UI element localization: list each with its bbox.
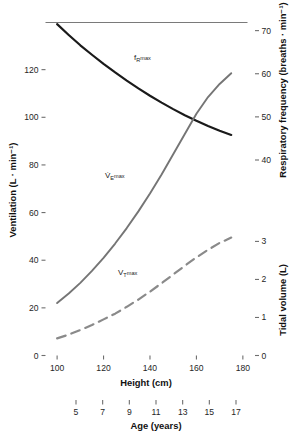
y-tick-tidal-volume: 1 [262,312,267,322]
y-tick-ventilation: 0 [34,351,39,361]
ventilation-growth-chart: 020406080100120 40506070 0123 1001201401… [0,0,299,434]
y-tick-ventilation: 40 [29,255,39,265]
x-tick-age: 9 [127,407,132,417]
x-tick-height: 180 [236,363,251,373]
y-tick-respiratory-frequency: 40 [262,155,272,165]
x-axis-title-height: Height (cm) [120,377,172,388]
x-tick-age: 11 [152,407,161,417]
y-axis-title-respiratory-frequency: Respiratory frequency (breaths · min⁻¹) [277,2,288,177]
x-tick-age: 17 [231,407,241,417]
y-tick-ventilation: 80 [29,160,39,170]
x-tick-height: 120 [96,363,111,373]
x-tick-age: 7 [100,407,105,417]
x-tick-age: 13 [178,407,188,417]
y-tick-ventilation: 100 [24,112,39,122]
x-tick-height: 160 [189,363,204,373]
x-tick-height: 140 [143,363,158,373]
y-tick-ventilation: 60 [29,208,39,218]
y-tick-ventilation: 20 [29,303,39,313]
y-axis-title-tidal-volume: Tidal volume (L) [277,264,288,336]
x-tick-height: 100 [50,363,65,373]
y-tick-tidal-volume: 0 [262,351,267,361]
x-axis-title-age: Age (years) [130,420,181,431]
y-tick-tidal-volume: 2 [262,274,267,284]
chart-figure: 020406080100120 40506070 0123 1001201401… [0,0,299,434]
y-axis-title-ventilation: Ventilation (L · min⁻¹) [7,143,18,238]
y-tick-respiratory-frequency: 50 [262,112,272,122]
y-tick-tidal-volume: 3 [262,236,267,246]
y-tick-respiratory-frequency: 60 [262,69,272,79]
x-tick-age: 5 [74,407,79,417]
y-tick-ventilation: 120 [24,65,39,75]
y-tick-respiratory-frequency: 70 [262,26,272,36]
x-tick-age: 15 [205,407,215,417]
